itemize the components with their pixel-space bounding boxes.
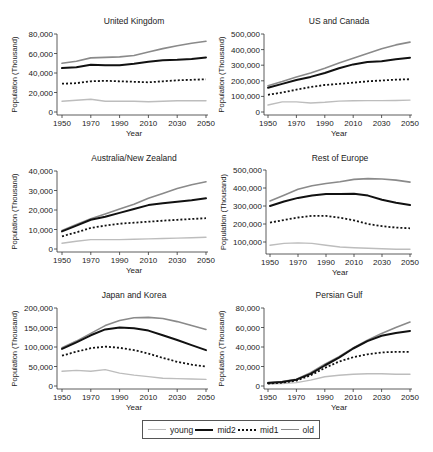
figure: United Kingdom020,00040,00060,00080,0001… [0,0,433,452]
y-tick-label: 20,000 [29,89,54,98]
x-tick-label: 2030 [168,393,186,402]
x-tick-label: 2050 [401,119,419,128]
series-line-young [62,99,206,102]
panel-japan-and-korea: Japan and Korea050,000100,000150,000200,… [10,290,215,412]
x-axis-label: Year [331,403,348,412]
y-axis-label: Population (Thousand) [10,310,19,386]
panel-us-and-canada: US and Canada0100,000200,000300,000400,0… [217,16,419,138]
series-line-young [62,370,206,380]
legend: young mid2 mid1 old [142,420,320,439]
x-tick-label: 2030 [168,256,186,265]
legend-label-young: young [170,425,193,435]
panel-rest-of-europe: Rest of Europe100,000200,000300,000400,0… [219,153,419,277]
x-tick-label: 1970 [289,258,307,267]
x-tick-label: 1970 [288,119,306,128]
legend-swatch-mid1 [238,429,256,431]
x-tick-label: 2010 [344,393,362,402]
series-line-mid2 [270,194,410,206]
x-tick-label: 1950 [259,119,277,128]
legend-item-mid2: mid2 [195,425,235,435]
x-axis-label: Year [126,266,143,275]
panel-persian-gulf: Persian Gulf020,00040,00060,00080,000195… [217,290,419,412]
y-tick-label: 40,000 [29,167,54,176]
y-tick-label: 60,000 [236,324,261,333]
legend-item-old: old [281,425,314,435]
x-tick-label: 2010 [344,119,362,128]
y-tick-label: 200,000 [24,304,53,313]
legend-label-old: old [303,425,314,435]
series-line-mid1 [62,79,206,83]
y-tick-label: 0 [256,382,261,391]
x-tick-label: 1990 [111,119,129,128]
y-tick-label: 400,000 [233,184,262,193]
series-line-mid1 [270,216,410,228]
y-tick-label: 100,000 [231,92,260,101]
x-tick-label: 1990 [111,393,129,402]
series-line-young [268,100,410,105]
y-axis-label: Population (Thousand) [217,36,226,112]
x-tick-label: 2030 [168,119,186,128]
x-axis-label: Year [332,268,349,277]
y-axis-label: Population (Thousand) [10,36,19,112]
y-tick-label: 100,000 [24,343,53,352]
x-tick-label: 2010 [140,256,158,265]
series-line-mid2 [62,198,206,231]
series-line-young [62,237,206,243]
y-tick-label: 30,000 [29,187,54,196]
y-tick-label: 50,000 [29,363,54,372]
y-tick-label: 60,000 [29,50,54,59]
x-tick-label: 2050 [197,393,215,402]
x-tick-label: 1950 [53,119,71,128]
y-tick-label: 200,000 [231,77,260,86]
x-tick-label: 2030 [373,393,391,402]
x-tick-label: 2010 [140,119,158,128]
y-tick-label: 80,000 [29,30,54,39]
y-tick-label: 0 [49,108,54,117]
panel-title: Persian Gulf [316,290,363,300]
y-tick-label: 80,000 [236,304,261,313]
x-tick-label: 1950 [53,256,71,265]
panel-title: Australia/New Zealand [91,153,177,163]
panel-united-kingdom: United Kingdom020,00040,00060,00080,0001… [10,16,215,138]
y-axis-label: Population (Thousand) [217,310,226,386]
x-axis-label: Year [331,129,348,138]
x-tick-label: 1970 [82,256,100,265]
x-tick-label: 2050 [197,256,215,265]
legend-swatch-mid2 [195,429,213,431]
x-tick-label: 2050 [197,119,215,128]
legend-label-mid1: mid1 [260,425,278,435]
series-line-young [268,374,410,384]
x-tick-label: 1990 [317,258,335,267]
series-line-mid1 [62,347,206,367]
x-tick-label: 1970 [82,119,100,128]
x-tick-label: 1990 [316,393,334,402]
y-tick-label: 40,000 [236,343,261,352]
x-tick-label: 1970 [288,393,306,402]
series-line-young [270,243,410,249]
y-tick-label: 0 [49,245,54,254]
y-axis-label: Population (Thousand) [10,173,19,249]
y-tick-label: 40,000 [29,69,54,78]
legend-item-mid1: mid1 [238,425,278,435]
legend-swatch-old [281,429,299,430]
y-tick-label: 100,000 [233,238,262,247]
y-axis-label: Population (Thousand) [219,174,228,250]
y-tick-label: 300,000 [231,61,260,70]
x-axis-label: Year [126,403,143,412]
legend-swatch-young [148,429,166,430]
y-tick-label: 20,000 [29,206,54,215]
series-line-mid2 [62,328,206,351]
panel-title: US and Canada [309,16,370,26]
y-tick-label: 10,000 [29,226,54,235]
y-tick-label: 300,000 [233,202,262,211]
x-axis-label: Year [126,129,143,138]
y-tick-label: 500,000 [233,166,262,175]
panel-title: Japan and Korea [102,290,167,300]
y-tick-label: 20,000 [236,363,261,372]
x-tick-label: 1990 [316,119,334,128]
y-tick-label: 0 [256,108,261,117]
x-tick-label: 1950 [53,393,71,402]
panel-title: United Kingdom [104,16,164,26]
y-tick-label: 150,000 [24,324,53,333]
x-tick-label: 2050 [401,258,419,267]
